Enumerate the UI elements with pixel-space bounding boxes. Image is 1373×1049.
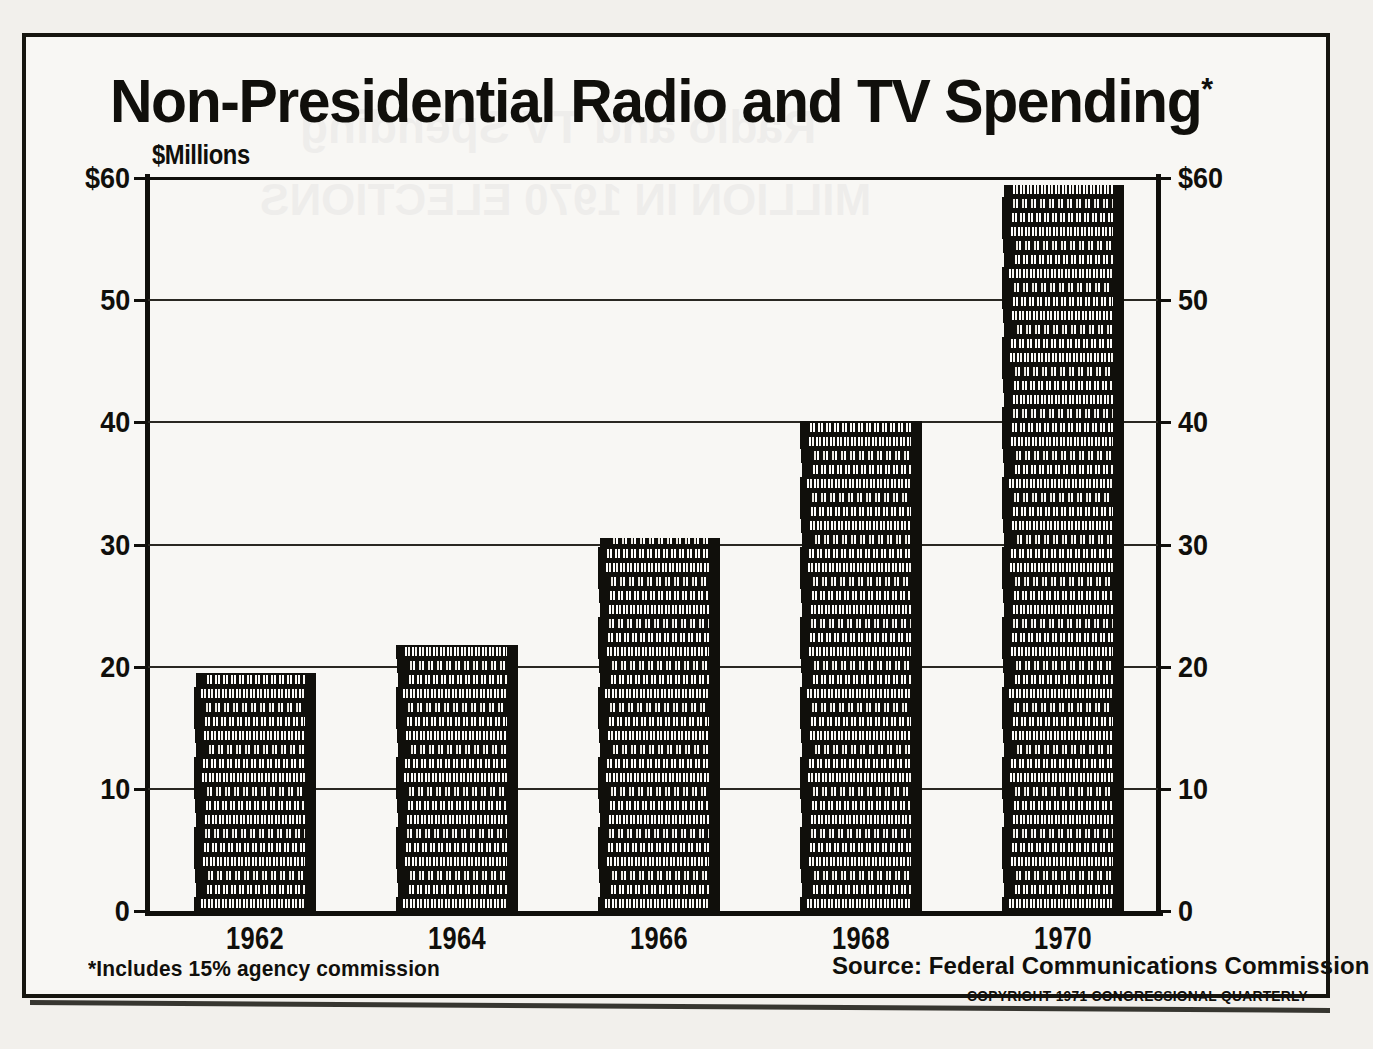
coin — [1002, 547, 1124, 561]
y-axis-unit-label: $Millions — [152, 140, 250, 171]
y-tick-left-50 — [134, 299, 147, 302]
coin — [397, 729, 518, 743]
coin — [599, 589, 720, 603]
coin — [800, 617, 922, 631]
coin — [195, 799, 316, 813]
coin — [1004, 463, 1124, 477]
coin — [801, 519, 922, 533]
coin — [598, 841, 720, 855]
coin — [598, 547, 720, 561]
footnote-agency-commission: *Includes 15% agency commission — [88, 956, 440, 982]
y-tick-left-40 — [134, 421, 147, 424]
coin — [800, 547, 922, 561]
coin — [1004, 603, 1124, 617]
coin — [1004, 813, 1124, 827]
coin — [599, 729, 720, 743]
coin — [1003, 519, 1124, 533]
coin — [1003, 869, 1124, 883]
y-tick-right-40 — [1158, 421, 1171, 424]
coin — [598, 785, 720, 799]
coin — [800, 897, 922, 911]
coin — [1002, 337, 1124, 351]
coin — [194, 827, 316, 841]
y-axis-label-right-40: 40 — [1178, 407, 1208, 437]
y-axis-label-left-0: 0 — [115, 896, 130, 926]
coin — [800, 785, 922, 799]
coin — [1002, 827, 1124, 841]
coin — [1003, 589, 1124, 603]
coin — [598, 757, 720, 771]
coin — [599, 659, 720, 673]
coin — [1002, 281, 1124, 295]
coin — [802, 603, 922, 617]
coin — [195, 729, 316, 743]
coin — [800, 645, 922, 659]
coin — [600, 603, 720, 617]
bar-1966 — [598, 538, 720, 911]
coin — [196, 743, 316, 757]
coin — [1002, 785, 1124, 799]
coin — [800, 505, 922, 519]
coin — [801, 869, 922, 883]
y-tick-left-0 — [134, 910, 147, 913]
coin — [1002, 575, 1124, 589]
y-axis-label-left-60: $60 — [85, 163, 130, 193]
coin — [396, 897, 518, 911]
coin — [1003, 729, 1124, 743]
coin — [1003, 799, 1124, 813]
bar-1970 — [1002, 185, 1124, 911]
coin — [396, 841, 518, 855]
coin — [1004, 533, 1124, 547]
coin — [801, 449, 922, 463]
coin — [1002, 197, 1124, 211]
coin — [598, 561, 720, 575]
y-tick-right-60 — [1158, 177, 1171, 180]
coin — [1004, 743, 1124, 757]
coin — [194, 715, 316, 729]
coin — [398, 813, 518, 827]
y-tick-right-0 — [1158, 910, 1171, 913]
coin — [598, 827, 720, 841]
coin — [1002, 715, 1124, 729]
coin — [396, 855, 518, 869]
coin — [398, 673, 518, 687]
x-axis-label-1964: 1964 — [407, 921, 507, 957]
coin — [598, 575, 720, 589]
chart-page: Non-Presidential Radio and TV Spending* … — [0, 0, 1373, 1049]
y-tick-left-60 — [134, 177, 147, 180]
coin — [800, 435, 922, 449]
coin — [1003, 239, 1124, 253]
coin — [1004, 185, 1124, 197]
coin — [1002, 505, 1124, 519]
coin — [599, 799, 720, 813]
coin — [802, 813, 922, 827]
y-axis-label-right-10: 10 — [1178, 774, 1208, 804]
y-tick-left-20 — [134, 666, 147, 669]
coin — [598, 631, 720, 645]
coin — [194, 757, 316, 771]
coin — [801, 799, 922, 813]
coin — [396, 645, 518, 659]
coin — [194, 687, 316, 701]
coin — [1002, 561, 1124, 575]
coin — [396, 785, 518, 799]
coin — [800, 631, 922, 645]
coin — [598, 687, 720, 701]
y-tick-right-30 — [1158, 544, 1171, 547]
coin — [396, 715, 518, 729]
coin — [800, 715, 922, 729]
coin — [800, 855, 922, 869]
coin — [1002, 351, 1124, 365]
coin — [800, 841, 922, 855]
coin — [398, 883, 518, 897]
coin — [196, 673, 316, 687]
y-tick-left-10 — [134, 788, 147, 791]
coin — [396, 687, 518, 701]
y-axis-label-right-30: 30 — [1178, 530, 1208, 560]
coin — [802, 533, 922, 547]
y-axis-label-left-30: 30 — [100, 530, 130, 560]
coin — [1002, 771, 1124, 785]
coin — [1002, 421, 1124, 435]
copyright-note: COPYRIGHT 1971 CONGRESSIONAL QUARTERLY — [967, 987, 1308, 1004]
coin — [194, 897, 316, 911]
